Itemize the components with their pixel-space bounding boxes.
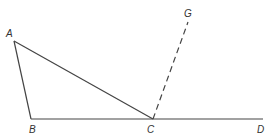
- segment-ac: [14, 41, 153, 119]
- label-b: B: [29, 124, 36, 135]
- segment-cg-dashed: [153, 22, 188, 119]
- geometry-diagram: A B C D G: [0, 0, 272, 138]
- label-c: C: [147, 124, 155, 135]
- label-d: D: [257, 124, 264, 135]
- segment-ab: [14, 41, 31, 119]
- label-a: A: [5, 28, 13, 39]
- label-g: G: [184, 8, 192, 19]
